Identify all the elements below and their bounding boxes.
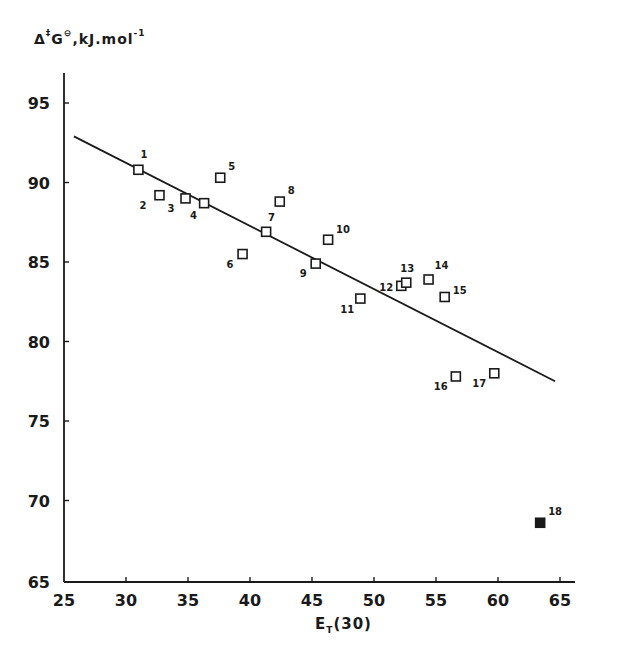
data-points: 123456789101112131415161718 bbox=[134, 149, 562, 527]
point-label: 14 bbox=[435, 260, 449, 271]
y-tick-label: 85 bbox=[28, 253, 50, 272]
x-tick-label: 30 bbox=[115, 591, 137, 610]
x-tick-label: 65 bbox=[549, 591, 571, 610]
open-square-marker bbox=[451, 372, 460, 381]
point-label: 12 bbox=[379, 282, 393, 293]
open-square-marker bbox=[324, 235, 333, 244]
scatter-plot: 65707580859095253035404550556065 1234567… bbox=[0, 0, 618, 672]
open-square-marker bbox=[262, 227, 271, 236]
open-square-marker bbox=[155, 191, 164, 200]
y-tick-label: 80 bbox=[28, 333, 50, 352]
point-label: 3 bbox=[168, 203, 175, 214]
open-square-marker bbox=[424, 275, 433, 284]
y-tick-label: 95 bbox=[28, 94, 50, 113]
open-square-marker bbox=[216, 173, 225, 182]
open-square-marker bbox=[275, 197, 284, 206]
filled-square-marker bbox=[536, 518, 545, 527]
point-label: 11 bbox=[340, 304, 354, 315]
point-label: 6 bbox=[227, 259, 234, 270]
point-label: 4 bbox=[190, 210, 197, 221]
x-tick-label: 35 bbox=[177, 591, 199, 610]
open-square-marker bbox=[440, 292, 449, 301]
open-square-marker bbox=[311, 259, 320, 268]
point-label: 13 bbox=[400, 263, 414, 274]
point-label: 18 bbox=[548, 506, 562, 517]
point-label: 16 bbox=[434, 381, 448, 392]
point-label: 17 bbox=[472, 378, 486, 389]
point-label: 2 bbox=[139, 200, 146, 211]
point-label: 1 bbox=[140, 149, 147, 160]
open-square-marker bbox=[490, 369, 499, 378]
x-tick-label: 60 bbox=[487, 591, 509, 610]
open-square-marker bbox=[200, 199, 209, 208]
point-label: 10 bbox=[336, 224, 350, 235]
point-label: 7 bbox=[268, 212, 275, 223]
point-label: 15 bbox=[453, 285, 467, 296]
point-label: 9 bbox=[300, 268, 307, 279]
open-square-marker bbox=[181, 194, 190, 203]
point-label: 8 bbox=[288, 185, 295, 196]
open-square-marker bbox=[402, 278, 411, 287]
open-square-marker bbox=[356, 294, 365, 303]
x-tick-label: 40 bbox=[239, 591, 261, 610]
open-square-marker bbox=[134, 165, 143, 174]
y-tick-label: 90 bbox=[28, 174, 50, 193]
y-tick-label: 70 bbox=[28, 492, 50, 511]
x-tick-label: 25 bbox=[53, 591, 75, 610]
x-tick-label: 55 bbox=[425, 591, 447, 610]
x-tick-label: 45 bbox=[301, 591, 323, 610]
axes: 65707580859095253035404550556065 bbox=[28, 73, 575, 610]
point-label: 5 bbox=[228, 161, 235, 172]
open-square-marker bbox=[238, 250, 247, 259]
y-tick-label: 75 bbox=[28, 412, 50, 431]
x-tick-label: 50 bbox=[363, 591, 385, 610]
y-tick-label: 65 bbox=[28, 573, 50, 592]
